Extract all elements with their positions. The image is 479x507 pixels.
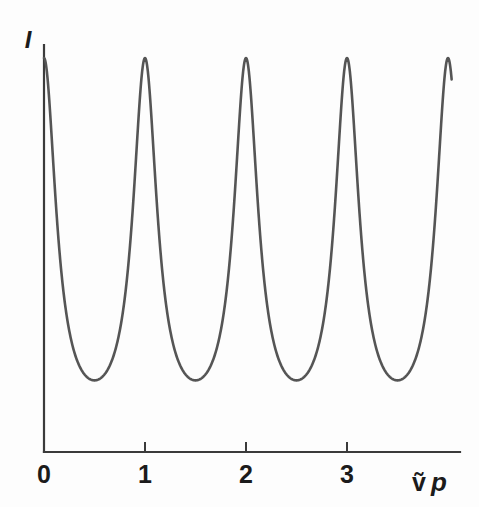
x-axis-tick-label: 2: [239, 460, 253, 488]
x-axis-label-p: p: [430, 467, 447, 497]
x-axis-tick-label: 3: [340, 460, 354, 488]
plot-background: [0, 0, 479, 507]
x-axis-label-nu-tilde: ṽ: [412, 468, 426, 496]
airy-function-plot: 0123 I ṽ p: [0, 0, 479, 507]
x-axis-tick-label: 1: [138, 460, 152, 488]
x-axis-tick-label: 0: [37, 460, 51, 488]
chart-figure: 0123 I ṽ p: [0, 0, 479, 507]
